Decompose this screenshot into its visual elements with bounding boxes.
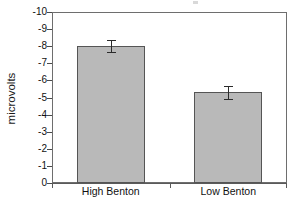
y-axis-tick-label: -7 bbox=[22, 58, 47, 68]
y-axis-tick-label: -5 bbox=[22, 93, 47, 103]
error-bar-stem bbox=[228, 86, 229, 99]
y-axis-tick-label: -3 bbox=[22, 127, 47, 137]
error-bar-stem bbox=[111, 40, 112, 52]
y-axis-tick-mark bbox=[47, 132, 52, 133]
error-bar-cap-upper bbox=[224, 86, 233, 87]
error-bar-cap-lower bbox=[107, 52, 116, 53]
y-axis-tick-label: -6 bbox=[22, 75, 47, 85]
y-axis-title: microvolts bbox=[0, 0, 22, 197]
title-artifact bbox=[193, 1, 198, 4]
y-axis-tick-mark bbox=[47, 80, 52, 81]
y-axis-tick-mark bbox=[47, 115, 52, 116]
bar-chart: microvolts -10-9-8-7-6-5-4-3-2-10 High B… bbox=[0, 0, 302, 197]
x-axis-tick-mark bbox=[286, 183, 287, 188]
y-axis-tick-mark bbox=[47, 46, 52, 47]
y-axis-tick-label: -4 bbox=[22, 110, 47, 120]
y-axis-tick-mark bbox=[47, 166, 52, 167]
y-axis-tick-labels: -10-9-8-7-6-5-4-3-2-10 bbox=[22, 0, 47, 197]
x-axis-tick-mark bbox=[52, 183, 53, 188]
y-axis-tick-mark bbox=[47, 98, 52, 99]
y-axis-tick-label: -1 bbox=[22, 161, 47, 171]
y-axis-tick-label: 0 bbox=[22, 178, 47, 188]
x-axis-category-label: High Benton bbox=[51, 186, 171, 197]
error-bar-cap-lower bbox=[224, 99, 233, 100]
error-bar-cap-upper bbox=[107, 40, 116, 41]
y-axis-tick-mark bbox=[47, 149, 52, 150]
y-axis-tick-label: -2 bbox=[22, 144, 47, 154]
y-axis-tick-mark bbox=[47, 12, 52, 13]
y-axis-tick-mark bbox=[47, 63, 52, 64]
x-axis-category-label: Low Benton bbox=[168, 186, 288, 197]
x-axis-tick-mark bbox=[170, 183, 171, 188]
y-axis-tick-label: -9 bbox=[22, 24, 47, 34]
y-axis-tick-label: -8 bbox=[22, 41, 47, 51]
y-axis-tick-label: -10 bbox=[22, 7, 47, 17]
bar bbox=[77, 46, 145, 183]
bar bbox=[194, 92, 262, 183]
y-axis-tick-mark bbox=[47, 29, 52, 30]
